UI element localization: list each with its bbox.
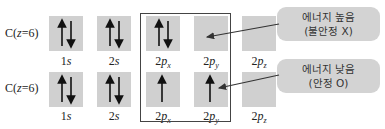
callout-line2: (불안정 X) (277, 24, 380, 38)
callout-line2: (안정 O) (277, 76, 380, 90)
orbital-l: s (115, 109, 120, 123)
callout-high-energy: 에너지 높음 (불안정 X) (277, 7, 380, 41)
orbital-1s-row2 (49, 72, 83, 107)
orbital-l: s (115, 54, 120, 68)
orbital-l: s (67, 109, 72, 123)
orbital-label-1s-row1: 1s (49, 54, 83, 69)
callout-line1: 에너지 높음 (277, 10, 380, 24)
atom-label-row1: C(z=6) (5, 26, 38, 41)
orbital-label-2pz-row2: 2pz (242, 109, 276, 125)
atom-suffix: =6) (22, 26, 39, 40)
highlight-frame (140, 13, 231, 122)
orbital-label-2pz-row1: 2pz (242, 54, 276, 70)
orbital-label-2s-row1: 2s (97, 54, 131, 69)
atom-prefix: C( (5, 26, 17, 40)
callout-line1: 에너지 낮음 (277, 62, 380, 76)
orbital-1s-row1 (49, 16, 83, 51)
orbital-2s-row2 (97, 72, 131, 107)
orbital-2pz-row1 (242, 16, 276, 51)
orbital-label-1s-row2: 1s (49, 109, 83, 124)
atom-label-row2: C(z=6) (5, 81, 38, 96)
orbital-2pz-row2 (242, 72, 276, 107)
orbital-label-2s-row2: 2s (97, 109, 131, 124)
orbital-l: s (67, 54, 72, 68)
atom-suffix: =6) (22, 81, 39, 95)
atom-prefix: C( (5, 81, 17, 95)
callout-low-energy: 에너지 낮음 (안정 O) (277, 59, 380, 93)
orbital-sub: z (263, 61, 266, 70)
orbital-2s-row1 (97, 16, 131, 51)
orbital-sub: z (263, 116, 266, 125)
